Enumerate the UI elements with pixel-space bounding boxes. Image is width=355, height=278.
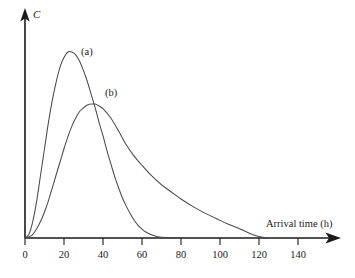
data-curve-a xyxy=(25,51,181,238)
x-tick-label: 140 xyxy=(290,250,306,261)
series-label-b: (b) xyxy=(105,88,117,99)
x-tick-label: 80 xyxy=(176,250,187,261)
chart-figure: C Arrival time (h) 0 20 40 60 80 100 120… xyxy=(0,0,355,278)
x-tick-label: 40 xyxy=(98,250,109,261)
x-tick-label: 0 xyxy=(22,250,27,261)
x-tick-label: 20 xyxy=(59,250,70,261)
y-axis-label: C xyxy=(33,9,40,20)
x-tick-label: 60 xyxy=(137,250,148,261)
x-tick-label: 120 xyxy=(251,250,267,261)
x-axis-ticks xyxy=(25,238,298,245)
series-label-a: (a) xyxy=(81,47,93,58)
data-curve-b xyxy=(25,104,267,238)
x-tick-label: 100 xyxy=(212,250,228,261)
chart-plot-area xyxy=(0,0,355,278)
x-axis-label: Arrival time (h) xyxy=(266,219,332,230)
